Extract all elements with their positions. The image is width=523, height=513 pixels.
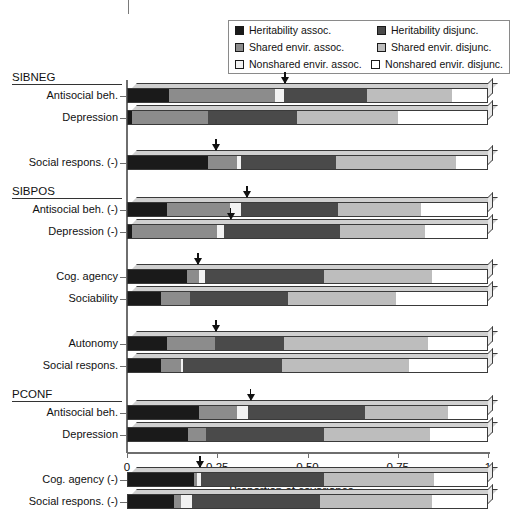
bar-segment [190,291,287,306]
bar-segment [127,336,167,351]
top-axis-mark [128,0,129,14]
y-axis-tick [120,413,127,414]
bar-segment [428,336,488,351]
legend-label: Nonshared envir. assoc. [249,59,362,70]
bar-top-face [132,286,498,291]
covariance-stacked-bar-chart: Heritability assoc. Heritability disjunc… [0,0,523,513]
bar-segment [456,155,488,170]
bar-segment [161,358,181,373]
bar-segment [127,427,188,442]
bar-row [127,405,488,420]
legend-label: Heritability disjunc. [391,25,479,36]
group-heading-rule [12,198,122,199]
bar-segment [398,110,488,125]
y-axis-label: Sociability [0,292,118,304]
arrow-annotation [250,389,252,400]
bar-segment [434,472,488,487]
bar-segment [324,269,432,284]
bar-segment [169,88,275,103]
bar-side-face [488,145,493,165]
group-heading: SIBPOS [12,185,55,197]
bar-segment [237,405,248,420]
bar-segment [161,291,190,306]
x-axis-tick [398,452,399,458]
bar-side-face [488,348,493,368]
bar-side-face [488,192,493,212]
bar-row [127,110,488,125]
bar-segment [174,494,181,509]
bar-segment [241,202,338,217]
bar-segment [365,405,448,420]
y-axis-label: Antisocial beh. [0,406,118,418]
bar-segment [188,427,206,442]
bar-side-face [488,214,493,234]
bar-top-face [132,197,498,202]
bar-side-face [488,417,493,437]
bar-row [127,88,488,103]
bar-segment [205,269,324,284]
legend-item-shared-envir-disjunc: Shared envir. disjunc. [377,42,491,53]
y-axis-tick [120,366,127,367]
y-axis-label: Social respons. (-) [0,495,118,507]
legend-row: Heritability assoc. Heritability disjunc… [235,25,503,36]
bar-segment [132,110,208,125]
bar-segment [425,224,488,239]
bar-row [127,494,488,509]
y-axis-tick [120,299,127,300]
legend-swatch-icon [235,26,244,35]
bar-segment [224,224,340,239]
bar-segment [127,202,167,217]
bar-row [127,269,488,284]
y-axis-label: Depression (-) [0,225,118,237]
group-heading-rule [12,401,122,402]
arrow-annotation [215,139,217,150]
bar-segment [282,358,408,373]
legend-row: Shared envir. assoc. Shared envir. disju… [235,42,503,53]
arrow-annotation [284,72,286,83]
y-axis-tick [120,118,127,119]
bar-side-face [488,259,493,279]
x-axis-line [127,452,490,454]
bar-segment [181,494,192,509]
bar-segment [367,88,452,103]
bar-segment [297,110,398,125]
bar-top-face [132,331,498,336]
bar-segment [338,202,421,217]
bar-segment [320,494,432,509]
bar-segment [215,336,284,351]
bar-top-face [132,422,498,427]
y-axis-label: Social respons. [0,359,118,371]
y-axis-tick [120,502,127,503]
bar-segment [432,269,488,284]
y-axis-label: Cog. agency (-) [0,473,118,485]
bar-row [127,472,488,487]
legend-label: Shared envir. disjunc. [391,42,491,53]
bar-row [127,155,488,170]
y-axis-tick [120,232,127,233]
y-axis-label: Depression [0,111,118,123]
bar-segment [288,291,396,306]
bar-top-face [132,400,498,405]
group-heading: SIBNEG [12,71,55,83]
x-axis-tick [488,452,489,458]
arrow-annotation [199,456,201,467]
bar-segment [127,358,161,373]
bar-segment [127,291,161,306]
bar-segment [336,155,455,170]
y-axis-label: Cog. agency [0,270,118,282]
bar-segment [201,472,324,487]
legend-swatch-icon [235,60,244,69]
arrow-annotation [215,320,217,331]
y-axis-label: Depression [0,428,118,440]
bar-segment [206,427,323,442]
bar-row [127,224,488,239]
arrow-annotation [230,208,232,219]
bar-top-face [132,264,498,269]
bar-segment [199,405,237,420]
bar-segment [187,269,200,284]
bar-row [127,358,488,373]
bar-segment [127,472,194,487]
bar-segment [132,224,217,239]
y-axis-tick [120,210,127,211]
bar-segment [448,405,488,420]
